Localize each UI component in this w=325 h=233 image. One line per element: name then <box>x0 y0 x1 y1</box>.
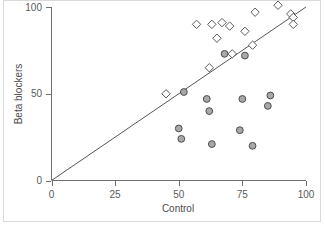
data-point-circle <box>267 92 274 99</box>
data-point-circle <box>180 89 187 96</box>
x-tick-label: 0 <box>49 189 55 200</box>
data-point-diamond <box>218 18 226 26</box>
data-point-circle <box>242 52 249 59</box>
data-point-diamond <box>274 1 282 9</box>
data-markers <box>162 1 298 149</box>
data-point-diamond <box>162 90 170 98</box>
data-point-circle <box>221 50 228 57</box>
x-axis-title: Control <box>162 203 194 214</box>
scatter-plot: 0255075100 050100 Control Beta blockers <box>0 0 325 233</box>
y-tick-label: 0 <box>36 175 42 186</box>
data-point-circle <box>236 127 243 134</box>
data-point-diamond <box>228 50 236 58</box>
y-tick-label: 100 <box>25 2 42 13</box>
data-point-diamond <box>192 20 200 28</box>
x-tick-label: 100 <box>298 189 315 200</box>
data-point-circle <box>208 141 215 148</box>
data-point-circle <box>249 142 256 149</box>
data-point-diamond <box>208 20 216 28</box>
data-point-diamond <box>225 22 233 30</box>
data-point-diamond <box>241 27 249 35</box>
data-point-diamond <box>213 34 221 42</box>
data-point-diamond <box>251 8 259 16</box>
figure-container: 0255075100 050100 Control Beta blockers <box>0 0 325 233</box>
x-tick-label: 50 <box>173 189 185 200</box>
data-point-circle <box>239 96 246 103</box>
x-axis-ticks: 0255075100 <box>49 181 315 200</box>
y-axis-ticks: 050100 <box>25 2 51 187</box>
data-point-circle <box>264 102 271 109</box>
y-axis-title: Beta blockers <box>13 64 24 125</box>
x-tick-label: 75 <box>237 189 249 200</box>
y-tick-label: 50 <box>31 88 43 99</box>
data-point-circle <box>206 108 213 115</box>
data-point-circle <box>178 135 185 142</box>
data-point-circle <box>203 96 210 103</box>
data-point-diamond <box>248 41 256 49</box>
data-point-circle <box>175 125 182 132</box>
x-tick-label: 25 <box>110 189 122 200</box>
data-point-diamond <box>289 20 297 28</box>
